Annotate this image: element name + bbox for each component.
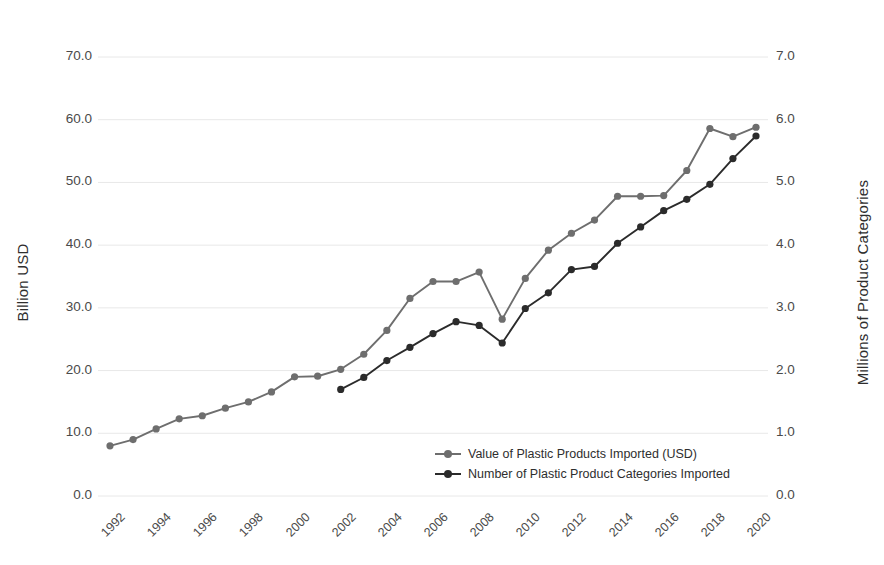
y-axis-right-tick: 5.0 (776, 173, 828, 188)
data-point (360, 351, 367, 358)
data-point (729, 133, 736, 140)
data-point (383, 357, 390, 364)
legend-item[interactable]: Number of Plastic Product Categories Imp… (435, 467, 730, 481)
y-axis-right-tick: 0.0 (776, 487, 828, 502)
data-point (591, 263, 598, 270)
data-point (660, 192, 667, 199)
data-point (153, 425, 160, 432)
data-point (337, 386, 344, 393)
data-point (522, 275, 529, 282)
y-axis-left-tick: 30.0 (40, 299, 92, 314)
data-point (476, 322, 483, 329)
y-axis-right-tick: 1.0 (776, 424, 828, 439)
y-axis-right-tick: 7.0 (776, 48, 828, 63)
legend-swatch-icon (435, 448, 461, 460)
series-1 (106, 124, 759, 450)
data-point (499, 316, 506, 323)
y-axis-right-tick: 4.0 (776, 236, 828, 251)
data-point (706, 181, 713, 188)
legend-swatch-icon (435, 468, 461, 480)
data-point (614, 193, 621, 200)
y-axis-left-tick: 0.0 (40, 487, 92, 502)
data-point (683, 196, 690, 203)
data-point (614, 240, 621, 247)
y-axis-left-tick: 20.0 (40, 362, 92, 377)
series-line (110, 127, 756, 446)
y-axis-right-tick: 2.0 (776, 362, 828, 377)
data-point (337, 366, 344, 373)
data-point (383, 327, 390, 334)
data-point (429, 278, 436, 285)
data-point (660, 207, 667, 214)
data-point (268, 388, 275, 395)
data-point (129, 436, 136, 443)
series-2 (337, 132, 759, 393)
data-point (752, 132, 759, 139)
data-point (568, 230, 575, 237)
y-axis-right-tick: 6.0 (776, 111, 828, 126)
data-point (406, 344, 413, 351)
data-point (360, 374, 367, 381)
data-point (591, 216, 598, 223)
y-axis-left-tick: 10.0 (40, 424, 92, 439)
data-point (729, 155, 736, 162)
data-point (176, 415, 183, 422)
y-axis-left-tick: 40.0 (40, 236, 92, 251)
y-axis-left-tick: 50.0 (40, 173, 92, 188)
legend-label: Value of Plastic Products Imported (USD) (468, 447, 697, 461)
series-line (341, 136, 756, 389)
data-point (568, 266, 575, 273)
data-point (406, 295, 413, 302)
data-point (452, 278, 459, 285)
data-point (706, 125, 713, 132)
data-point (314, 373, 321, 380)
data-point (522, 305, 529, 312)
chart-container: Billion USD Millions of Product Categori… (0, 0, 884, 565)
data-point (291, 373, 298, 380)
data-point (637, 193, 644, 200)
data-point (476, 269, 483, 276)
data-point (199, 412, 206, 419)
data-point (452, 318, 459, 325)
data-point (637, 223, 644, 230)
y-axis-left-tick: 60.0 (40, 111, 92, 126)
data-point (245, 398, 252, 405)
data-point (429, 330, 436, 337)
data-point (222, 405, 229, 412)
data-point (545, 247, 552, 254)
legend-label: Number of Plastic Product Categories Imp… (468, 467, 730, 481)
data-point (683, 167, 690, 174)
data-point (752, 124, 759, 131)
legend-item[interactable]: Value of Plastic Products Imported (USD) (435, 447, 697, 461)
y-axis-right-tick: 3.0 (776, 299, 828, 314)
data-point (499, 339, 506, 346)
data-point (106, 442, 113, 449)
y-axis-left-tick: 70.0 (40, 48, 92, 63)
data-point (545, 289, 552, 296)
grid-lines (98, 57, 768, 496)
